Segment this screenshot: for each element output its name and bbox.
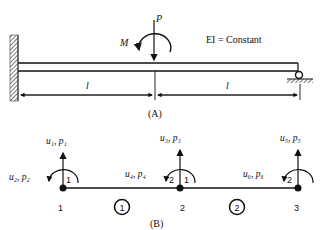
moment-arrow [139, 34, 171, 52]
node-3: u₅, p₅ u₆, p₆ 2 3 [243, 133, 313, 213]
caption-b: (B) [150, 218, 163, 230]
node-1: u₁, p₁ u₂, p₂ 1 1 [9, 136, 78, 213]
node-label: 3 [294, 203, 299, 213]
vertical-dof-label: u₃, p₃ [160, 133, 181, 143]
rotation-dof-label: u₆, p₆ [243, 169, 264, 179]
element-label: 1 [119, 203, 124, 213]
stiffness-note: EI = Constant [206, 34, 262, 45]
end-label-right: 1 [184, 175, 189, 185]
span-label-right: l [226, 80, 229, 91]
node-label: 2 [180, 203, 185, 213]
span-label-left: l [86, 80, 89, 91]
fixed-support [10, 35, 18, 101]
end-label: 2 [287, 175, 292, 185]
end-label: 1 [66, 175, 71, 185]
element-2: 2 [230, 200, 245, 215]
rotation-dof-label: u₄, p₄ [125, 169, 146, 179]
end-label-left: 2 [169, 175, 174, 185]
element-1: 1 [115, 200, 130, 215]
vertical-dof-label: u₅, p₅ [280, 133, 301, 143]
rotation-dof-label: u₂, p₂ [9, 172, 31, 182]
element-label: 2 [234, 203, 239, 213]
node-2: u₃, p₃ u₄, p₄ 2 1 2 [125, 133, 195, 213]
ground-hatch [287, 79, 313, 83]
figure-a: P M EI = Constant l l (A) [10, 13, 313, 120]
node-label: 1 [58, 203, 63, 213]
vertical-dof-label: u₁, p₁ [46, 136, 67, 146]
figure-b: u₁, p₁ u₂, p₂ 1 1 u₃, p₃ u₄, p₄ 2 1 2 u₅… [9, 133, 313, 230]
caption-a: (A) [148, 108, 162, 120]
roller-support [296, 72, 303, 79]
moment-label: M [119, 37, 129, 48]
beam-diagram: P M EI = Constant l l (A) u₁, p₁ u₂, p₂ … [0, 0, 330, 230]
load-label: P [155, 13, 162, 24]
